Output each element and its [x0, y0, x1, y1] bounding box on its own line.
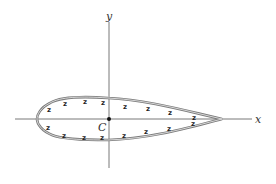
svg-text:z: z [123, 103, 127, 111]
svg-text:z: z [144, 128, 148, 136]
svg-text:z: z [146, 105, 150, 113]
point-c-marker [107, 117, 111, 121]
surface-hatching: z z z z z z z z z z z z z z z z [46, 98, 196, 142]
svg-text:z: z [101, 99, 105, 107]
svg-text:z: z [167, 125, 171, 133]
airfoil-diagram: z z z z z z z z z z z z z z z z x y C [0, 0, 276, 184]
y-axis-label: y [105, 10, 113, 23]
x-axis-label: x [255, 113, 262, 126]
svg-text:z: z [47, 106, 51, 114]
svg-text:z: z [191, 120, 195, 128]
point-c-label: C [98, 121, 107, 134]
svg-text:z: z [168, 109, 172, 117]
svg-text:z: z [62, 132, 66, 140]
svg-text:z: z [100, 134, 104, 142]
svg-text:z: z [82, 134, 86, 142]
svg-text:z: z [83, 98, 87, 106]
svg-text:z: z [63, 100, 67, 108]
svg-text:z: z [46, 124, 50, 132]
svg-text:z: z [122, 132, 126, 140]
